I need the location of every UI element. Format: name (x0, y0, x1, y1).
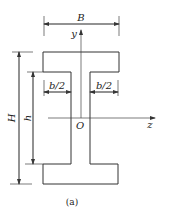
label-B: B (76, 12, 84, 23)
label-z-axis: z (146, 119, 153, 130)
label-b-half-left: b/2 (49, 80, 65, 91)
label-y-axis: y (70, 28, 77, 39)
label-b-half-right: b/2 (96, 80, 112, 91)
i-beam-diagram: B H h b/2 b/2 y z O (a) (0, 0, 182, 213)
label-origin: O (76, 120, 84, 131)
label-h: h (22, 115, 33, 121)
figure-caption: (a) (66, 197, 78, 207)
label-H: H (6, 113, 17, 123)
